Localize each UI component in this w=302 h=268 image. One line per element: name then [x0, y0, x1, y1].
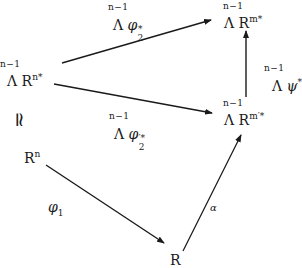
isomorphism-symbol: ≃ — [8, 112, 32, 129]
base-space: R — [170, 252, 181, 268]
wedge-operator: Λ — [114, 126, 124, 142]
wedge-operator: Λ — [224, 15, 234, 31]
degree-label: n−1 — [109, 112, 145, 121]
subscript: 2 — [139, 143, 145, 152]
degree-label: n−1 — [264, 64, 302, 73]
diagram-arrows — [0, 0, 302, 268]
superscript: n — [35, 149, 41, 159]
arrow-phi1 — [46, 165, 164, 243]
alpha-symbol: α — [210, 202, 217, 213]
degree-label: n−1 — [108, 3, 143, 12]
superscript: n* — [32, 72, 42, 82]
psi-symbol: ψ — [287, 78, 298, 94]
wedge-operator: Λ — [272, 78, 282, 94]
arrow-alpha — [183, 135, 241, 251]
superscript: m′* — [249, 111, 264, 121]
degree-label: n−1 — [223, 2, 262, 11]
phi-symbol: φ — [129, 126, 139, 142]
isomorphism-icon: ≃ — [10, 112, 30, 129]
subscript: 2 — [137, 34, 143, 43]
label-alpha: α — [210, 203, 217, 213]
degree-label: n−1 — [223, 99, 264, 108]
node-lambda-rm-prime-star: n−1 Λ Rm′* — [219, 99, 264, 127]
superscript: m* — [249, 14, 262, 24]
label-phi2-prime-star: n−1 Λ φ′*2 — [109, 112, 145, 152]
degree-label: n−1 — [0, 60, 42, 69]
node-lambda-rm-star: n−1 Λ Rm* — [219, 2, 262, 30]
phi-symbol: φ — [128, 17, 138, 33]
wedge-operator: Λ — [7, 73, 17, 89]
label-psi-star: n−1 Λ ψ* — [264, 64, 302, 93]
label-phi2-star: n−1 Λ φ*2 — [106, 3, 143, 43]
wedge-operator: Λ — [224, 112, 234, 128]
base-space: R — [24, 150, 35, 166]
subscript: 1 — [58, 208, 64, 218]
label-phi1: φ1 — [48, 200, 64, 218]
node-rn: Rn — [24, 150, 40, 165]
phi-symbol: φ — [48, 199, 58, 215]
node-r: R — [170, 253, 181, 267]
base-space: R — [22, 73, 33, 89]
base-space: R — [239, 112, 250, 128]
wedge-operator: Λ — [113, 17, 123, 33]
arrow-phi2-prime-star — [54, 84, 212, 113]
superscript: * — [298, 77, 302, 87]
node-lambda-rn-star: n−1 Λ Rn* — [0, 60, 42, 88]
base-space: R — [239, 15, 250, 31]
